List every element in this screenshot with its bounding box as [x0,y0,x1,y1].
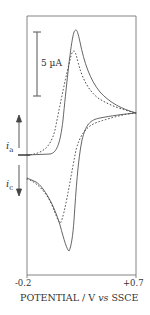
plot-frame [27,16,136,275]
cathodic-arrow [17,165,22,196]
scale-bar [33,32,41,96]
scale-bar-label: 5 µA [41,58,62,68]
x-tick-max: +0.7 [123,278,144,288]
dotted-curve [27,51,136,223]
anodic-current-label: ia [6,140,13,154]
ia-sub: a [9,146,13,154]
x-title-pre: POTENTIAL / V [20,292,98,303]
x-title-vs: vs [98,292,108,303]
x-title-post: SSCE [108,292,138,303]
cathodic-current-label: ic [6,178,13,192]
anodic-arrow [17,115,22,148]
ic-sub: c [9,184,13,192]
cyclic-voltammogram [0,0,150,315]
x-axis-ticks [27,275,136,278]
x-tick-min: -0.2 [15,278,31,288]
x-axis-title: POTENTIAL / V vs SSCE [20,292,138,303]
